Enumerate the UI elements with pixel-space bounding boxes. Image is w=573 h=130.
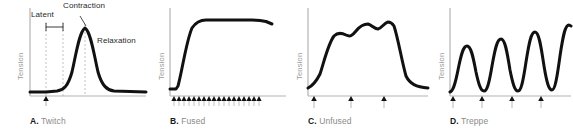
panel-a-y-axis-label: Tension: [16, 53, 25, 80]
annotation-latent: Latent: [31, 10, 54, 19]
panel-d-y-axis-label: Tension: [437, 53, 446, 80]
annotation-relaxation: Relaxation: [97, 36, 136, 45]
panel-c-caption: C. Unfused: [308, 116, 352, 126]
panel-d-letter: D.: [450, 116, 459, 126]
panel-c-y-axis-label: Tension: [295, 53, 304, 80]
panel-d-treppe: Tension D. Treppe: [430, 0, 573, 130]
panel-c-unfused: Tension C. Unfused: [288, 0, 430, 130]
stimulus-arrow: [43, 96, 49, 106]
contraction-leader-line: [80, 16, 86, 26]
stimulus-arrow-group: [311, 96, 387, 108]
panel-b-y-axis-label: Tension: [157, 53, 166, 80]
annotation-contraction: Contraction: [63, 1, 105, 10]
panel-b-letter: B.: [170, 116, 179, 126]
panel-a-twitch: Tension Latent Contraction Relaxation A.…: [0, 0, 148, 130]
panel-d-name: Treppe: [461, 116, 488, 126]
treppe-curve: [450, 25, 571, 92]
panel-a-name: Twitch: [41, 116, 66, 126]
muscle-contraction-figure: Tension Latent Contraction Relaxation A.…: [0, 0, 573, 130]
unfused-tetanus-curve: [308, 22, 428, 88]
panel-a-letter: A.: [30, 116, 39, 126]
panel-b-name: Fused: [181, 116, 205, 126]
panel-b-caption: B. Fused: [170, 116, 205, 126]
panel-d-caption: D. Treppe: [450, 116, 488, 126]
panel-c-plot: [288, 0, 430, 112]
panel-c-letter: C.: [308, 116, 317, 126]
panel-d-plot: [430, 0, 573, 112]
stimulus-arrow-group: [450, 96, 544, 108]
panel-b-fused: Tension B. Fused: [148, 0, 288, 130]
latent-bracket: [46, 23, 63, 31]
panel-b-plot: [148, 0, 288, 112]
panel-c-name: Unfused: [319, 116, 351, 126]
fused-tetanus-curve: [170, 20, 272, 89]
stimulus-arrow-group: [171, 96, 261, 106]
panel-a-caption: A. Twitch: [30, 116, 66, 126]
